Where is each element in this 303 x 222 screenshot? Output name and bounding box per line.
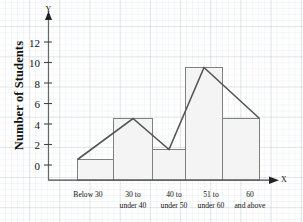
bar-60-and-above	[223, 119, 260, 181]
bar-below-30	[78, 160, 114, 181]
bar-40-to-50	[153, 150, 186, 181]
plot-area	[0, 0, 303, 222]
histogram-chart: Number of Students 12 10 8 6 4 2 0 Y X B…	[0, 0, 303, 222]
bars-group	[78, 68, 260, 181]
y-axis-arrow-icon	[45, 11, 52, 20]
bar-51-to-60	[186, 68, 223, 181]
x-axis-arrow-icon	[269, 177, 279, 185]
